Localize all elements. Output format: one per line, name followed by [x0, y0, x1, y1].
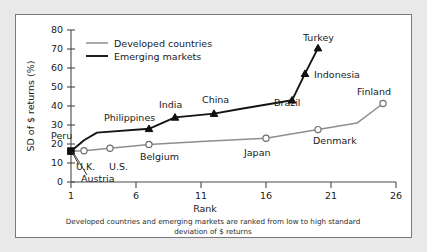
- data-point: [107, 145, 113, 151]
- legend-label-emerging: Emerging markets: [114, 51, 201, 62]
- annotation-denmark: Denmark: [313, 135, 357, 146]
- annotation-uk: U.K.: [76, 161, 95, 172]
- point-annotations: Peru Philippines India China Brazil Indo…: [51, 32, 391, 184]
- caption-line-1: Developed countries and emerging markets…: [66, 217, 360, 226]
- annotation-austria: Austria: [81, 173, 115, 184]
- data-point: [81, 148, 87, 154]
- figure-caption: Developed countries and emerging markets…: [66, 217, 360, 236]
- annotation-philippines: Philippines: [104, 112, 155, 123]
- annotation-china: China: [202, 94, 229, 105]
- y-tick-label: 70: [51, 43, 63, 54]
- data-point: [314, 44, 322, 51]
- x-axis-ticks: [71, 182, 396, 188]
- x-tick-label: 11: [195, 190, 207, 201]
- x-tick-label: 1: [68, 190, 74, 201]
- data-point: [146, 141, 152, 147]
- legend: Developed countries Emerging markets: [86, 38, 212, 62]
- annotation-finland: Finland: [357, 86, 391, 97]
- legend-label-developed: Developed countries: [114, 38, 212, 49]
- y-tick-label: 30: [51, 119, 63, 130]
- annotation-indonesia: Indonesia: [314, 69, 360, 80]
- y-tick-label: 60: [51, 62, 63, 73]
- y-tick-label: 40: [51, 100, 63, 111]
- data-point: [263, 135, 269, 141]
- annotation-peru: Peru: [51, 130, 72, 141]
- y-axis-tick-labels: 0 10 20 30 40 50 60 70 80: [51, 24, 63, 187]
- figure-panel: 0 10 20 30 40 50 60 70 80 1 6 11 16 21 2…: [15, 14, 412, 238]
- y-tick-label: 10: [51, 157, 63, 168]
- x-tick-label: 16: [260, 190, 272, 201]
- data-point: [380, 100, 386, 106]
- annotation-japan: Japan: [243, 147, 271, 158]
- x-axis-tick-labels: 1 6 11 16 21 26: [68, 190, 402, 201]
- x-axis-title: Rank: [193, 203, 217, 214]
- y-axis-title: SD of $ returns (%): [25, 60, 36, 151]
- annotation-brazil: Brazil: [274, 97, 301, 108]
- annotation-belgium: Belgium: [140, 151, 179, 162]
- data-point: [301, 70, 309, 77]
- annotation-turkey: Turkey: [302, 32, 334, 43]
- y-tick-label: 0: [57, 176, 63, 187]
- caption-line-2: deviation of $ returns: [174, 227, 252, 236]
- data-point: [315, 127, 321, 133]
- annotation-india: India: [159, 99, 182, 110]
- y-tick-label: 80: [51, 24, 63, 35]
- x-tick-label: 21: [325, 190, 337, 201]
- x-tick-label: 6: [133, 190, 139, 201]
- x-tick-label: 26: [390, 190, 402, 201]
- annotation-us: U.S.: [109, 161, 128, 172]
- y-tick-label: 50: [51, 81, 63, 92]
- chart-canvas: 0 10 20 30 40 50 60 70 80 1 6 11 16 21 2…: [16, 15, 411, 237]
